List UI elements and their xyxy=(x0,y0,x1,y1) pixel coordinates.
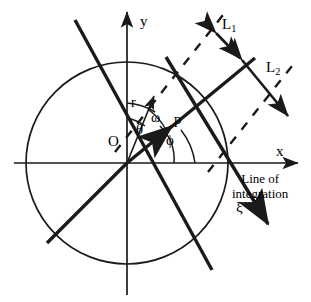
line-of-integration-line1: Line of xyxy=(232,172,288,187)
theta-direction-line xyxy=(75,20,212,270)
p-line-extension xyxy=(170,58,255,128)
L1-label: L1 xyxy=(222,17,236,34)
xi-axis-label: ξ xyxy=(236,200,243,215)
geometry-diagram: y x O r θ ω ϕ p ξ L1 L2 Line of integrat… xyxy=(0,0,311,302)
p-line-lower-left xyxy=(47,163,127,243)
L1-measure-arrow xyxy=(216,33,240,58)
phi-angle-label: ϕ xyxy=(166,133,174,148)
L1-base: L xyxy=(222,16,231,32)
line-of-integration-annotation: Line of integration xyxy=(232,172,288,201)
omega-angle-label: ω xyxy=(151,111,160,125)
diagram-canvas xyxy=(0,0,311,302)
L2-subscript: 2 xyxy=(275,66,280,77)
L2-measure-arrow xyxy=(242,60,288,116)
theta-angle-label: θ xyxy=(136,122,143,137)
L2-base: L xyxy=(266,59,275,75)
y-axis-label: y xyxy=(140,14,148,29)
spacer xyxy=(47,222,266,244)
line-of-integration-line2: integration xyxy=(232,187,288,202)
origin-label: O xyxy=(108,134,119,149)
r-vector-label: r xyxy=(131,96,136,110)
p-point-label: p xyxy=(174,112,182,127)
L2-label: L2 xyxy=(266,60,280,77)
omega-line-hidden xyxy=(47,19,74,244)
phi-arc xyxy=(181,130,195,163)
x-axis-label: x xyxy=(276,144,284,159)
L1-subscript: 1 xyxy=(231,23,236,34)
